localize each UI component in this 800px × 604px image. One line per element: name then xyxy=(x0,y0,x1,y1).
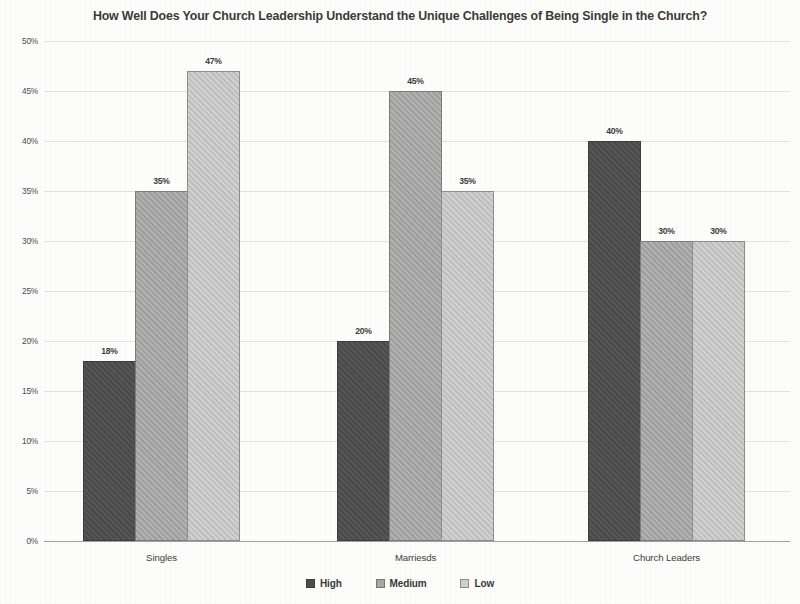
bar-church-leaders-low xyxy=(692,241,745,541)
y-axis-tick-label: 50% xyxy=(4,36,38,46)
gridline xyxy=(44,41,790,42)
legend-label: High xyxy=(320,578,342,589)
bar-church-leaders-medium xyxy=(640,241,693,541)
y-axis-tick-label: 30% xyxy=(4,236,38,246)
y-axis-tick-label: 45% xyxy=(4,86,38,96)
y-axis-tick-label: 25% xyxy=(4,286,38,296)
y-axis-tick-label: 35% xyxy=(4,186,38,196)
x-axis-label-church-leaders: Church Leaders xyxy=(633,552,700,563)
bar-value-label: 18% xyxy=(101,346,118,356)
bar-singles-low xyxy=(187,71,240,541)
bar-value-label: 30% xyxy=(658,226,675,236)
y-axis-tick-label: 0% xyxy=(4,536,38,546)
bar-value-label: 35% xyxy=(153,176,170,186)
bar-marriesds-low xyxy=(441,191,494,541)
bar-value-label: 40% xyxy=(606,126,623,136)
bar-singles-medium xyxy=(135,191,188,541)
legend-label: Low xyxy=(474,578,494,589)
y-axis-tick-label: 10% xyxy=(4,436,38,446)
bar-marriesds-medium xyxy=(389,91,442,541)
legend-swatch-icon xyxy=(306,579,315,588)
bar-singles-high xyxy=(83,361,136,541)
y-axis-tick-label: 20% xyxy=(4,336,38,346)
legend-item-low[interactable]: Low xyxy=(460,578,494,589)
bar-value-label: 20% xyxy=(355,326,372,336)
legend-item-medium[interactable]: Medium xyxy=(376,578,427,589)
legend-label: Medium xyxy=(390,578,427,589)
chart-legend: HighMediumLow xyxy=(0,578,800,589)
x-axis-label-marriesds: Marriesds xyxy=(395,552,436,563)
bar-value-label: 45% xyxy=(407,76,424,86)
bar-value-label: 47% xyxy=(205,56,222,66)
plot-area: 50%45%40%35%30%25%20%15%10%5%0% 18%35%47… xyxy=(44,41,790,541)
chart-page: How Well Does Your Church Leadership Und… xyxy=(0,0,800,604)
y-axis-tick-label: 15% xyxy=(4,386,38,396)
bar-marriesds-high xyxy=(337,341,390,541)
page-title: How Well Does Your Church Leadership Und… xyxy=(0,9,800,23)
legend-item-high[interactable]: High xyxy=(306,578,342,589)
legend-swatch-icon xyxy=(376,579,385,588)
x-axis-label-singles: Singles xyxy=(146,552,177,563)
y-axis-tick-label: 5% xyxy=(4,486,38,496)
legend-swatch-icon xyxy=(460,579,469,588)
bar-value-label: 30% xyxy=(710,226,727,236)
bar-church-leaders-high xyxy=(588,141,641,541)
axis-baseline xyxy=(44,541,790,542)
bar-value-label: 35% xyxy=(459,176,476,186)
y-axis-tick-label: 40% xyxy=(4,136,38,146)
